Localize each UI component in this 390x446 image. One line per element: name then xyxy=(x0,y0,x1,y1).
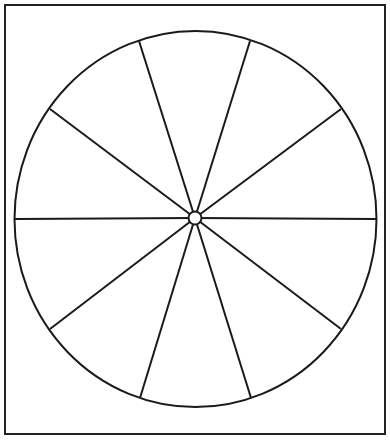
spoke-line xyxy=(195,41,250,218)
spoke-line xyxy=(15,218,195,219)
spoke-line xyxy=(195,218,341,329)
spoke-line xyxy=(195,218,376,219)
center-hub xyxy=(189,212,202,225)
spoke-line xyxy=(140,218,195,398)
spoke-line xyxy=(50,218,195,329)
spoke-line xyxy=(50,109,195,218)
spoke-line xyxy=(139,41,195,218)
spoke-line xyxy=(195,218,251,398)
spoke-line xyxy=(195,109,341,218)
pie-wheel-diagram xyxy=(0,0,390,446)
wheel-canvas xyxy=(0,0,390,446)
